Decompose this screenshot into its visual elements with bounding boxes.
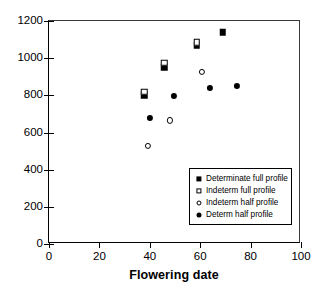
data-point — [207, 85, 213, 91]
y-tick-label: 1000 — [17, 52, 43, 64]
open-square-icon — [194, 186, 203, 195]
data-point — [167, 117, 173, 123]
x-tick — [200, 242, 201, 248]
y-tick-inner — [49, 95, 54, 96]
x-tick-label: 60 — [194, 251, 207, 263]
legend-item-label: Determ half profile — [206, 210, 273, 219]
y-tick-label: 1200 — [17, 15, 43, 27]
legend-item: Indeterm half profile — [194, 197, 288, 208]
x-tick-label: 40 — [143, 251, 156, 263]
x-tick — [301, 242, 302, 248]
data-point — [194, 39, 201, 46]
y-tick-label: 400 — [24, 164, 43, 176]
filled-square-icon — [194, 174, 203, 183]
x-tick — [150, 242, 151, 248]
legend-item: Indeterm full profile — [194, 185, 288, 196]
legend-item-label: Indeterm full profile — [206, 186, 276, 195]
data-point — [171, 93, 177, 99]
y-tick-label: 200 — [24, 201, 43, 213]
chart-legend: Determinate full profileIndeterm full pr… — [189, 168, 292, 225]
data-point — [220, 29, 227, 36]
x-tick-label: 100 — [291, 251, 310, 263]
data-point — [141, 88, 148, 95]
x-tick — [251, 242, 252, 248]
x-tick-label: 0 — [46, 251, 52, 263]
data-point — [147, 115, 153, 121]
y-tick-label: 0 — [37, 238, 43, 250]
x-tick — [49, 242, 50, 248]
x-tick-label: 80 — [244, 251, 257, 263]
y-tick-inner — [49, 21, 54, 22]
x-axis-title: Flowering date — [48, 268, 300, 282]
legend-item-label: Indeterm half profile — [206, 198, 278, 207]
y-tick-inner — [49, 58, 54, 59]
legend-item: Determ half profile — [194, 209, 288, 220]
scatter-chart-figure: 020040060080010001200 020406080100 Flowe… — [0, 0, 320, 293]
data-point — [199, 69, 205, 75]
x-tick-label: 20 — [93, 251, 106, 263]
x-tick — [99, 242, 100, 248]
y-tick-label: 800 — [24, 90, 43, 102]
legend-item-label: Determinate full profile — [206, 174, 288, 183]
data-point — [145, 142, 151, 148]
data-point — [161, 60, 168, 67]
y-tick-inner — [49, 133, 54, 134]
y-tick-inner — [49, 207, 54, 208]
open-circle-icon — [194, 198, 203, 207]
data-point — [234, 83, 240, 89]
y-tick-label: 600 — [24, 127, 43, 139]
y-tick-inner — [49, 170, 54, 171]
legend-item: Determinate full profile — [194, 173, 288, 184]
filled-circle-icon — [194, 210, 203, 219]
